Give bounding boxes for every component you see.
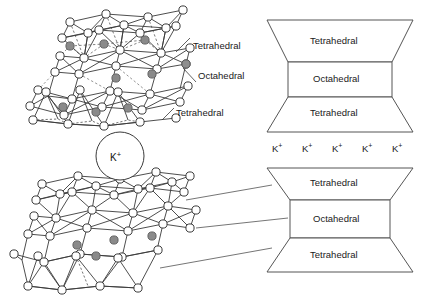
- lower-block-label-tetrahedral-top: Tetrahedral: [310, 178, 358, 188]
- interlayer-ion-4: K+: [362, 142, 372, 154]
- interlayer-cation-symbol: K: [110, 152, 117, 163]
- structure-label-tetrahedral-bottom: Tetrahedral: [176, 108, 224, 118]
- lower-block-label-octahedral: Octahedral: [313, 214, 359, 224]
- interlayer-ion-5: K+: [392, 142, 402, 154]
- interlayer-ion-3: K+: [332, 142, 342, 154]
- ion-charge: +: [278, 142, 282, 149]
- upper-octahedral-sheet: [55, 40, 190, 74]
- structure-label-octahedral: Octahedral: [198, 71, 244, 81]
- ion-charge: +: [398, 142, 402, 149]
- upper-block-label-tetrahedral-bottom: Tetrahedral: [310, 108, 358, 118]
- ion-charge: +: [338, 142, 342, 149]
- lower-block-label-tetrahedral-bottom: Tetrahedral: [310, 250, 358, 260]
- interlayer-ion-1: K+: [272, 142, 282, 154]
- structure-label-tetrahedral-top: Tetrahedral: [193, 41, 241, 51]
- ion-charge: +: [368, 142, 372, 149]
- interlayer-cation-charge: +: [117, 150, 121, 159]
- upper-block-label-tetrahedral-top: Tetrahedral: [310, 36, 358, 46]
- interlayer-ion-2: K+: [302, 142, 312, 154]
- interlayer-cation-label: K+: [110, 150, 121, 163]
- figure-canvas: Tetrahedral Octahedral Tetrahedral K+ Te…: [0, 0, 425, 297]
- upper-block-label-octahedral: Octahedral: [313, 74, 359, 84]
- ion-charge: +: [308, 142, 312, 149]
